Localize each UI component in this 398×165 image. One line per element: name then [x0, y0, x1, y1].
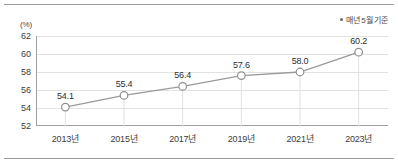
data-point-label: 55.4: [116, 79, 133, 89]
top-divider-rule: [4, 4, 394, 5]
line-chart: (%) 매년 5월 기준 525456586062 54.155.456.457…: [0, 0, 398, 165]
data-point-label: 54.1: [57, 91, 74, 101]
x-axis-tick-label: 2023년: [345, 132, 372, 145]
data-point-marker: [296, 68, 304, 76]
data-point-marker: [62, 103, 70, 111]
x-axis-tick-label: 2017년: [169, 132, 196, 145]
legend-note-text: 매년 5월 기준: [346, 14, 388, 25]
plot-area: 525456586062 54.155.456.457.658.060.2 20…: [36, 36, 388, 126]
x-axis-tick-label: 2015년: [110, 132, 137, 145]
data-point-label: 60.2: [350, 36, 367, 46]
data-series-line: [36, 36, 388, 126]
y-axis-tick-label: 56: [21, 85, 31, 95]
data-point-marker: [355, 48, 363, 56]
data-point-label: 56.4: [174, 70, 191, 80]
x-axis-tick-label: 2019년: [228, 132, 255, 145]
data-point-marker: [179, 83, 187, 91]
data-point-marker: [238, 72, 246, 80]
data-point-label: 58.0: [292, 56, 309, 66]
data-point-marker: [120, 92, 128, 100]
dot-marker-icon: [340, 18, 343, 21]
y-axis-tick-label: 60: [21, 49, 31, 59]
y-axis-tick-label: 54: [21, 103, 31, 113]
legend-note: 매년 5월 기준: [340, 14, 388, 25]
bottom-divider-rule: [4, 158, 394, 159]
data-point-label: 57.6: [233, 60, 250, 70]
y-axis-tick-label: 52: [21, 121, 31, 131]
x-axis-tick-label: 2021년: [286, 132, 313, 145]
y-axis-unit-label: (%): [20, 20, 32, 29]
series-polyline: [65, 52, 358, 107]
y-axis-tick-label: 58: [21, 67, 31, 77]
x-axis-tick-label: 2013년: [52, 132, 79, 145]
y-axis-tick-label: 62: [21, 31, 31, 41]
